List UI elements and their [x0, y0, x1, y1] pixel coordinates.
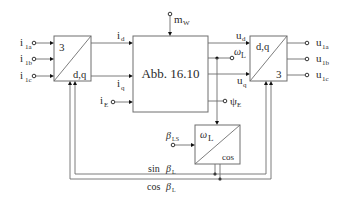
center-block-label: Abb. 16.10 — [141, 66, 199, 81]
svg-text:i: i — [117, 29, 120, 41]
svg-text:sin: sin — [148, 163, 160, 174]
svg-text:q: q — [243, 81, 247, 89]
svg-text:d: d — [121, 35, 125, 43]
signal-id: i d — [91, 29, 133, 45]
signal-uq: u q — [208, 72, 250, 89]
input-terminal-mW[interactable] — [168, 12, 172, 16]
svg-text:1c: 1c — [322, 75, 329, 83]
omega-block-top-label: ω — [200, 129, 207, 140]
arrow-icon — [50, 74, 54, 78]
svg-text:m: m — [174, 13, 183, 25]
arrow-icon — [129, 74, 133, 78]
omega-block-bottom-label: cos — [222, 152, 234, 162]
svg-text:β: β — [165, 130, 171, 141]
svg-text:d: d — [242, 35, 246, 43]
svg-text:L: L — [172, 187, 176, 193]
svg-text:β: β — [165, 163, 171, 174]
arrow-icon — [246, 41, 250, 45]
input-terminal-betaLS[interactable] — [171, 143, 175, 147]
right-block-top-label: d,q — [256, 41, 270, 52]
input-terminal-iE[interactable] — [111, 100, 115, 104]
svg-text:i: i — [117, 77, 120, 89]
output-u1c: u 1c — [287, 68, 329, 83]
left-block-top-label: 3 — [59, 41, 65, 53]
arrow-icon — [50, 41, 54, 45]
svg-text:i: i — [20, 69, 23, 81]
arrow-icon — [264, 81, 268, 85]
input-i1b: i 1b — [20, 52, 54, 67]
input-iE: i E — [100, 94, 133, 109]
output-terminal-u1a[interactable] — [305, 41, 309, 45]
svg-text:1a: 1a — [25, 43, 33, 51]
svg-text:ω: ω — [234, 46, 241, 57]
svg-text:W: W — [183, 19, 190, 27]
svg-text:L: L — [241, 51, 246, 60]
arrow-icon — [73, 81, 77, 85]
output-terminal-u1c[interactable] — [305, 73, 309, 77]
left-transform-block: 3 d,q — [54, 36, 91, 81]
input-terminal-i1a[interactable] — [32, 41, 36, 45]
signal-ud: u d — [208, 29, 250, 45]
signal-iq: i q — [91, 74, 133, 92]
arrow-icon — [50, 57, 54, 61]
svg-text:cos: cos — [147, 181, 160, 192]
arrow-icon — [215, 121, 219, 125]
svg-text:i: i — [100, 94, 103, 106]
output-u1b: u 1b — [287, 52, 330, 67]
arrow-icon — [269, 81, 273, 85]
omega-cos-block: ω L cos — [195, 125, 240, 164]
svg-text:1b: 1b — [322, 59, 330, 67]
svg-text:i: i — [20, 52, 23, 64]
svg-text:E: E — [237, 101, 241, 109]
output-terminal-psiE[interactable] — [223, 99, 227, 103]
svg-text:q: q — [121, 84, 125, 92]
input-terminal-i1b[interactable] — [32, 57, 36, 61]
input-i1c: i 1c — [20, 69, 54, 84]
output-u1a: u 1a — [287, 36, 330, 51]
svg-text:ψ: ψ — [230, 95, 237, 107]
input-betaLS: β LS — [165, 130, 195, 147]
arrow-icon — [191, 143, 195, 147]
svg-text:1b: 1b — [25, 59, 33, 67]
arrow-icon — [168, 32, 172, 36]
arrow-icon — [129, 41, 133, 45]
input-i1a: i 1a — [20, 36, 54, 51]
svg-text:i: i — [20, 36, 23, 48]
svg-text:LS: LS — [172, 136, 179, 142]
arrow-icon — [129, 100, 133, 104]
svg-text:E: E — [104, 101, 108, 109]
input-terminal-i1c[interactable] — [32, 74, 36, 78]
svg-text:1a: 1a — [322, 43, 330, 51]
arrow-icon — [246, 72, 250, 76]
svg-text:L: L — [172, 169, 176, 175]
svg-text:L: L — [208, 133, 214, 143]
right-block-bottom-label: 3 — [276, 68, 282, 80]
center-block: Abb. 16.10 — [133, 36, 208, 112]
output-terminal-u1b[interactable] — [305, 57, 309, 61]
svg-text:β: β — [165, 181, 171, 192]
arrow-icon — [68, 81, 72, 85]
svg-text:1c: 1c — [25, 76, 32, 84]
block-diagram: 3 d,q i 1a i 1b i 1c i d i q i E — [0, 0, 344, 199]
input-mW: m W — [168, 12, 190, 36]
left-block-bottom-label: d,q — [73, 69, 87, 80]
right-transform-block: d,q 3 — [250, 36, 287, 81]
signal-psiE: ψ E — [208, 95, 241, 109]
